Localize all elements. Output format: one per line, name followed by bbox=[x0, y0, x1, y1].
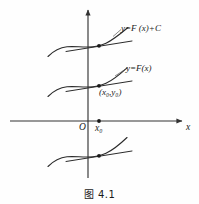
axes-group bbox=[10, 10, 182, 178]
origin-label: O bbox=[79, 123, 86, 133]
curve-lower-group bbox=[48, 138, 132, 167]
x-axis-label: x bbox=[186, 123, 190, 133]
leader-line-middle bbox=[115, 70, 125, 77]
curve-label-upper: y=F (x)+C bbox=[121, 24, 161, 33]
point-coordinate-label: (x₀,y₀) bbox=[99, 88, 122, 97]
curve-upper-group bbox=[48, 28, 132, 57]
point-lower bbox=[97, 154, 101, 158]
point-upper bbox=[97, 44, 101, 48]
x0-tick-label: x₀ bbox=[95, 124, 103, 134]
leader-line-upper bbox=[113, 30, 121, 37]
figure-caption: 图 4.1 bbox=[0, 186, 199, 201]
figure-container: y=F (x)+C y=F(x) (x₀,y₀) O x₀ x 图 4.1 bbox=[0, 0, 199, 204]
curve-label-middle: y=F(x) bbox=[126, 64, 152, 73]
plot-canvas bbox=[0, 0, 199, 204]
